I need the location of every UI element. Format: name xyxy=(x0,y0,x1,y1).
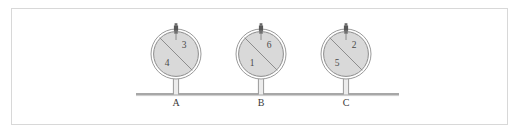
disc-lower-number-a: 4 xyxy=(165,58,170,68)
disc-upper-number-c: 2 xyxy=(352,40,357,50)
station-label-b: B xyxy=(258,97,265,108)
stem-c xyxy=(343,79,348,95)
disc-upper-number-b: 6 xyxy=(267,40,272,50)
disc-lower-number-c: 5 xyxy=(335,58,340,68)
disc-lower-number-b: 1 xyxy=(250,58,255,68)
station-label-c: C xyxy=(343,97,350,108)
figure-root: 3 4 A 6 1 B xyxy=(0,0,521,138)
diagram-canvas: 3 4 A 6 1 B xyxy=(0,0,521,138)
stem-b xyxy=(258,79,263,95)
disc-upper-number-a: 3 xyxy=(182,40,187,50)
station-label-a: A xyxy=(172,97,180,108)
stem-a xyxy=(173,79,178,95)
